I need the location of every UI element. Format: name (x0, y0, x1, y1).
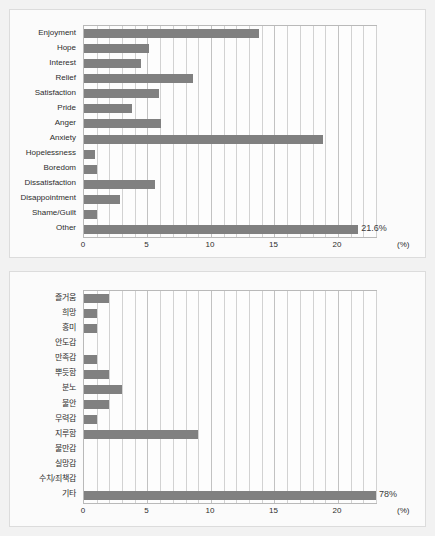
x-tick-label: 0 (81, 241, 85, 249)
category-label-Anxiety: Anxiety (50, 134, 76, 142)
category-label-Relief: Relief (56, 74, 76, 82)
category-label-기타: 기타 (62, 490, 76, 498)
x-tick-label: 20 (332, 241, 341, 249)
bar-Anxiety (84, 135, 323, 144)
bar-row (84, 207, 376, 222)
chart-panel-english: EnjoymentHopeInterestReliefSatisfactionP… (9, 9, 426, 258)
category-label-지루함: 지루함 (55, 430, 76, 438)
bar-row (84, 336, 376, 351)
bar-row (84, 458, 376, 473)
bar-기타 (84, 491, 376, 500)
bar-row (84, 56, 376, 71)
category-label-실망감: 실망감 (55, 460, 76, 468)
bar-row (84, 177, 376, 192)
bar-rows-english: 21.6% (84, 26, 376, 237)
bar-row (84, 397, 376, 412)
category-label-즐거움: 즐거움 (55, 294, 76, 302)
category-label-Boredom: Boredom (44, 164, 76, 172)
bar-value-label: 21.6% (361, 224, 387, 233)
category-label-희망: 희망 (62, 309, 76, 317)
bar-chart-korean: 즐거움희망흥미안도감만족감뿌듯함분노불안무력감지루함불만감실망감수치/죄책감기타… (10, 272, 425, 526)
bar-row (84, 162, 376, 177)
bar-row (84, 147, 376, 162)
x-tick-label: 10 (206, 507, 215, 515)
category-label-Pride: Pride (57, 104, 76, 112)
bar-row (84, 427, 376, 442)
category-label-Anger: Anger (55, 119, 76, 127)
bar-value-label: 78% (379, 490, 397, 499)
bar-row (84, 101, 376, 116)
category-label-불만감: 불만감 (55, 445, 76, 453)
category-label-만족감: 만족감 (55, 354, 76, 362)
x-tick-label: 20 (332, 507, 341, 515)
bar-row: 21.6% (84, 222, 376, 237)
bar-불안 (84, 400, 109, 409)
axis-unit-label-korean: (%) (397, 507, 409, 515)
x-tick-label: 10 (206, 241, 215, 249)
x-tick-label: 5 (144, 241, 148, 249)
bar-Other (84, 225, 358, 234)
bar-row (84, 321, 376, 336)
bar-row (84, 71, 376, 86)
category-label-Interest: Interest (49, 59, 76, 67)
bar-Relief (84, 74, 193, 83)
category-label-Other: Other (56, 224, 76, 232)
x-tick-label: 15 (269, 241, 278, 249)
bar-무력감 (84, 415, 97, 424)
bar-row (84, 26, 376, 41)
x-tick-label: 15 (269, 507, 278, 515)
bar-row (84, 86, 376, 101)
bar-Disappointment (84, 195, 120, 204)
category-label-무력감: 무력감 (55, 415, 76, 423)
bar-Enjoyment (84, 29, 259, 38)
plot-area-english: 21.6% (83, 25, 377, 238)
bar-row (84, 116, 376, 131)
chart-panel-korean: 즐거움희망흥미안도감만족감뿌듯함분노불안무력감지루함불만감실망감수치/죄책감기타… (9, 271, 426, 527)
bar-Anger (84, 119, 161, 128)
bar-뿌듯함 (84, 370, 109, 379)
bar-row (84, 192, 376, 207)
bar-row (84, 473, 376, 488)
bar-row (84, 367, 376, 382)
category-label-Disappointment: Disappointment (20, 194, 76, 202)
category-label-흥미: 흥미 (62, 324, 76, 332)
x-tick-label: 0 (81, 507, 85, 515)
bar-흥미 (84, 324, 97, 333)
category-label-불안: 불안 (62, 400, 76, 408)
axis-unit-label-english: (%) (397, 241, 409, 249)
bar-row (84, 132, 376, 147)
category-label-Hopelessness: Hopelessness (26, 149, 76, 157)
category-label-Enjoyment: Enjoyment (38, 29, 76, 37)
bar-Hopelessness (84, 150, 95, 159)
bar-희망 (84, 309, 97, 318)
category-label-뿌듯함: 뿌듯함 (55, 369, 76, 377)
bar-row (84, 306, 376, 321)
bar-chart-english: EnjoymentHopeInterestReliefSatisfactionP… (10, 10, 425, 257)
bar-Boredom (84, 165, 97, 174)
category-label-안도감: 안도감 (55, 339, 76, 347)
bar-Shame/Guilt (84, 210, 97, 219)
plot-area-korean: 78% (83, 290, 377, 504)
bar-지루함 (84, 430, 198, 439)
bar-Satisfaction (84, 89, 159, 98)
category-label-Hope: Hope (57, 44, 76, 52)
bar-분노 (84, 385, 122, 394)
category-label-분노: 분노 (62, 384, 76, 392)
gridline (376, 291, 377, 503)
category-axis-english: EnjoymentHopeInterestReliefSatisfactionP… (10, 25, 80, 238)
category-label-Satisfaction: Satisfaction (35, 89, 76, 97)
chart-page: EnjoymentHopeInterestReliefSatisfactionP… (0, 0, 435, 536)
category-label-Shame/Guilt: Shame/Guilt (32, 209, 76, 217)
bar-row (84, 412, 376, 427)
bar-Hope (84, 44, 149, 53)
bar-row (84, 352, 376, 367)
bar-즐거움 (84, 294, 109, 303)
bar-row (84, 291, 376, 306)
bar-row (84, 382, 376, 397)
bar-row (84, 442, 376, 457)
gridline (376, 26, 377, 237)
category-label-Dissatisfaction: Dissatisfaction (24, 179, 76, 187)
bar-만족감 (84, 355, 97, 364)
bar-rows-korean: 78% (84, 291, 376, 503)
bar-Dissatisfaction (84, 180, 155, 189)
